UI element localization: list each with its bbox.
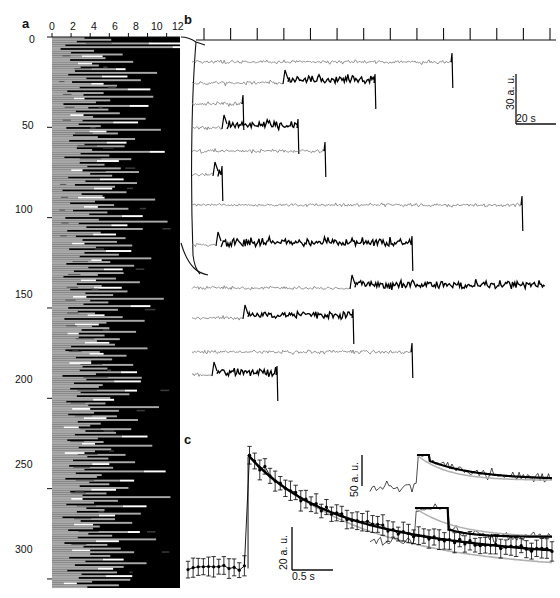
figure-root: a 0 2 4 6 8 10 12 0 50 100 150 200 250 3… <box>0 0 560 598</box>
inset-reference-fit <box>415 508 552 536</box>
panel-c-data-point <box>192 566 195 569</box>
panel-c-data-point <box>325 505 328 508</box>
panel-c-data-point <box>217 565 220 568</box>
panel-c-data-point <box>186 568 189 571</box>
inset-fit-curve <box>415 508 552 537</box>
panel-c-inset-1 <box>370 454 552 492</box>
panel-c-data-point <box>366 520 369 523</box>
panel-c-data-point <box>212 565 215 568</box>
panel-c-scalebar <box>292 527 333 570</box>
panel-c-data-point <box>243 564 246 567</box>
panel-c-data-point <box>381 523 384 526</box>
panel-c-data-point <box>202 565 205 568</box>
panel-c-data-point <box>233 566 236 569</box>
inset-raw-trace <box>370 454 551 492</box>
panel-c-data-point <box>263 465 266 468</box>
panel-c-data-point <box>397 532 400 535</box>
panel-c-body <box>186 446 554 578</box>
panel-c-average-plot <box>0 0 560 598</box>
panel-c-data-point <box>238 569 241 572</box>
panel-c-data-point <box>222 564 225 567</box>
panel-c-data-point <box>227 567 230 570</box>
panel-c-data-point <box>207 565 210 568</box>
panel-c-data-point <box>197 565 200 568</box>
panel-c-data-line <box>188 455 552 570</box>
panel-c-data-point <box>499 547 502 550</box>
